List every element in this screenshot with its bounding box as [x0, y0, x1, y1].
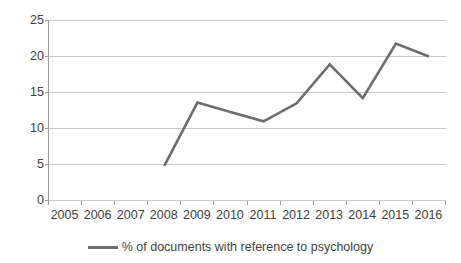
y-axis-label-0: 0 — [6, 194, 44, 206]
x-axis-label-2012: 2012 — [280, 205, 313, 229]
axis-tick-marks — [45, 21, 446, 205]
legend-label: % of documents with reference to psychol… — [122, 240, 374, 254]
y-axis-label-15: 15 — [6, 86, 44, 98]
x-axis-label-2010: 2010 — [213, 205, 246, 229]
x-axis-label-2016: 2016 — [412, 205, 445, 229]
chart-legend: % of documents with reference to psychol… — [0, 236, 461, 258]
x-axis-label-2005: 2005 — [48, 205, 81, 229]
plot-svg — [0, 0, 461, 212]
gridlines — [49, 21, 446, 201]
y-axis-label-25: 25 — [6, 14, 44, 26]
y-axis-label-20: 20 — [6, 50, 44, 62]
y-axis-tick-labels: 0510152025 — [0, 0, 44, 212]
x-axis-label-2011: 2011 — [246, 205, 279, 229]
legend-line-swatch-icon — [88, 246, 118, 249]
x-axis-label-2007: 2007 — [114, 205, 147, 229]
data-series-lines — [164, 44, 429, 166]
x-axis-label-2008: 2008 — [147, 205, 180, 229]
legend-item[interactable]: % of documents with reference to psychol… — [88, 240, 374, 254]
x-axis-label-2006: 2006 — [81, 205, 114, 229]
plot-area: 0510152025 — [0, 0, 461, 212]
x-axis-label-2014: 2014 — [346, 205, 379, 229]
x-axis-label-2013: 2013 — [313, 205, 346, 229]
x-axis-tick-labels: 2005200620072008200920102011201220132014… — [48, 205, 445, 229]
series-line-0 — [164, 44, 429, 166]
line-chart: 0510152025 20052006200720082009201020112… — [0, 0, 461, 263]
x-axis-label-2009: 2009 — [180, 205, 213, 229]
x-axis-label-2015: 2015 — [379, 205, 412, 229]
y-axis-label-10: 10 — [6, 122, 44, 134]
y-axis-label-5: 5 — [6, 158, 44, 170]
